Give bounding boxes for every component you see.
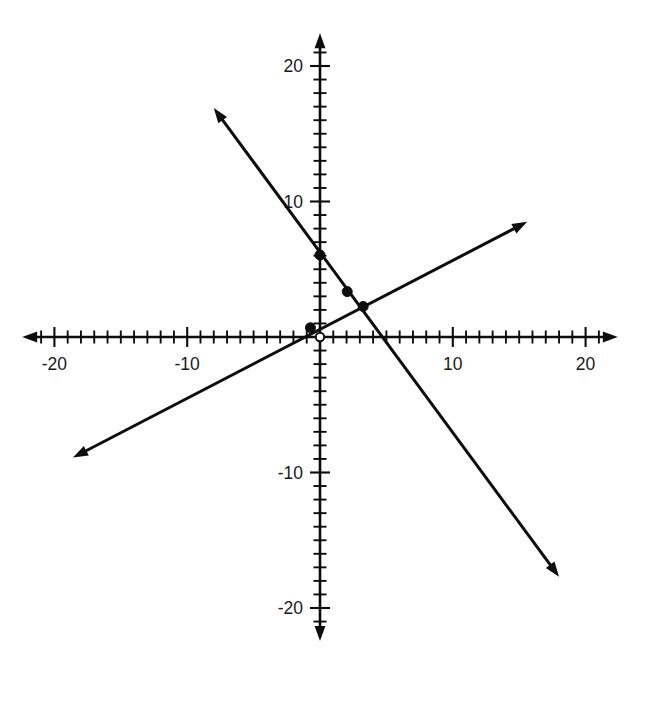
series-decreasing-line bbox=[220, 117, 552, 568]
y-axis-arrow-up bbox=[315, 33, 326, 48]
y-tick-label: 20 bbox=[284, 56, 304, 76]
y-axis-arrow-down bbox=[315, 626, 326, 641]
point-origin-point bbox=[316, 333, 324, 341]
increasing-line-arrow-start bbox=[73, 446, 89, 458]
y-tick-label: -10 bbox=[278, 463, 304, 483]
point-mid-point bbox=[342, 287, 352, 297]
x-tick-label: -10 bbox=[175, 354, 201, 374]
point-intersection-point bbox=[358, 302, 368, 312]
x-tick-label: 20 bbox=[576, 354, 596, 374]
x-axis-arrow-left bbox=[22, 332, 37, 343]
increasing-line-arrow-end bbox=[511, 222, 527, 234]
point-near-origin-point bbox=[305, 323, 315, 333]
coordinate-plane-graph: -20-1010202010-10-20 bbox=[0, 0, 646, 722]
x-axis-arrow-right bbox=[603, 332, 618, 343]
x-tick-label: 10 bbox=[443, 354, 463, 374]
graph-canvas: -20-1010202010-10-20 bbox=[0, 0, 646, 722]
x-tick-label: -20 bbox=[42, 354, 68, 374]
y-tick-label: -20 bbox=[278, 598, 304, 618]
point-y-intercept-point bbox=[315, 250, 325, 260]
